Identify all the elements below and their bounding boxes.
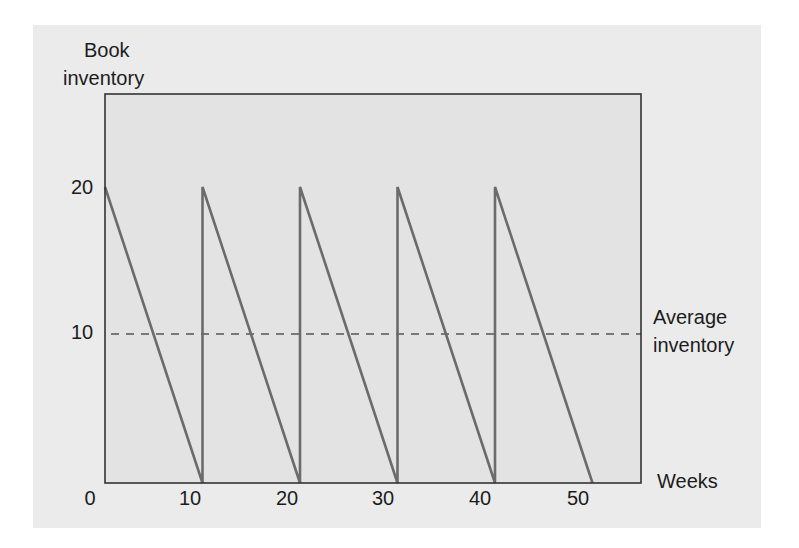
average-inventory-label-line2: inventory: [653, 334, 734, 356]
x-tick-label: 40: [469, 487, 491, 509]
x-tick-label: 0: [85, 487, 96, 509]
x-tick-label: 50: [567, 487, 589, 509]
y-tick-label: 20: [71, 176, 93, 198]
plot-area: [105, 94, 641, 483]
y-axis-title-line2: inventory: [63, 67, 144, 89]
y-tick-label: 10: [71, 321, 93, 343]
average-inventory-label-line1: Average: [653, 306, 727, 328]
x-tick-label: 10: [179, 487, 201, 509]
x-tick-label: 20: [276, 487, 298, 509]
y-axis-title-line1: Book: [84, 39, 130, 61]
x-tick-label: 30: [372, 487, 394, 509]
x-axis-title: Weeks: [657, 470, 718, 492]
